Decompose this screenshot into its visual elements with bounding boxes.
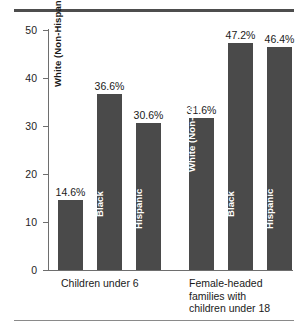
y-tick-label-0: 0 [31,265,37,275]
category-label-female-headed-families: Female-headed families with children und… [189,277,305,315]
bar-value-group0-hispanic: 30.6% [130,110,167,121]
bar-value-group1-black: 47.2% [222,30,259,41]
bar-value-group0-black: 36.6% [91,81,128,92]
bar-value-group1-hispanic: 46.4% [261,34,298,45]
y-tick-label-40: 40 [25,73,37,83]
bar-label-group1-white: White (Non-Hispanic) [187,74,197,172]
y-axis-line [48,29,49,271]
y-tick-mark-10 [43,222,48,223]
bar-label-group1-black: Black [226,191,236,217]
y-tick-mark-40 [43,78,48,79]
bar-group0-white[interactable] [58,200,83,270]
bar-label-group0-black: Black [95,191,105,217]
chart-figure: 50 40 30 20 10 0 14.6% White (Non-Hispan… [0,0,306,331]
bar-label-group0-white: White (Non-Hispanic) [53,0,63,87]
bar-label-group1-hispanic: Hispanic [265,189,275,229]
bar-value-group0-white: 14.6% [52,187,89,198]
y-tick-label-50: 50 [25,25,37,35]
bar-group0-black[interactable] [97,94,122,270]
category-label-children-under-6: Children under 6 [61,277,181,290]
bar-group1-hispanic[interactable] [267,47,292,270]
category-label-line: families with [189,290,305,303]
category-label-line: Female-headed [189,277,305,290]
bar-chart-plot-area: 50 40 30 20 10 0 14.6% White (Non-Hispan… [0,0,306,331]
y-tick-mark-0 [43,270,48,271]
y-tick-mark-20 [43,174,48,175]
y-tick-label-30: 30 [25,121,37,131]
y-tick-mark-50 [43,30,48,31]
y-tick-label-20: 20 [25,169,37,179]
x-axis-line [48,270,293,271]
category-label-line: children under 18 [189,302,305,315]
bar-group1-black[interactable] [228,43,253,270]
bar-label-group0-hispanic: Hispanic [134,189,144,229]
y-tick-mark-30 [43,126,48,127]
y-tick-label-10: 10 [25,217,37,227]
category-label-line: Children under 6 [61,277,181,290]
